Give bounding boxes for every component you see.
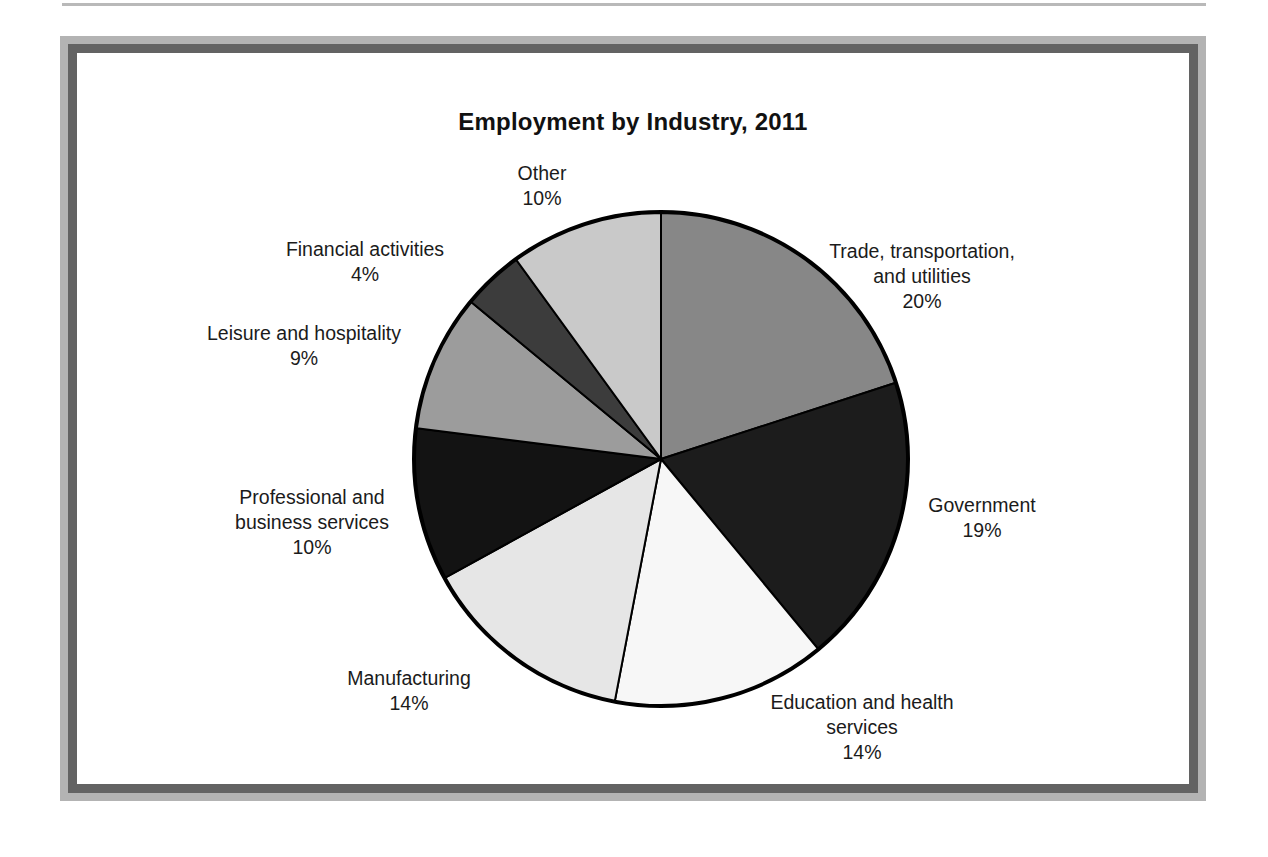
pie-label-education-and-health-services: Education and health services 14% (737, 690, 987, 765)
pie-label-financial-activities: Financial activities 4% (240, 237, 490, 287)
pie-label-other: Other 10% (462, 161, 622, 211)
chart-canvas: Employment by Industry, 2011 Trade, tran… (77, 53, 1189, 784)
page-top-rule (62, 3, 1206, 6)
figure-frame-inner: Employment by Industry, 2011 Trade, tran… (68, 44, 1198, 793)
pie-label-leisure-and-hospitality: Leisure and hospitality 9% (159, 321, 449, 371)
pie-label-trade-transportation-and-utilities: Trade, transportation, and utilities 20% (807, 239, 1037, 314)
pie-label-professional-and-business-services: Professional and business services 10% (187, 485, 437, 560)
chart-title: Employment by Industry, 2011 (77, 108, 1189, 136)
figure-frame-outer: Employment by Industry, 2011 Trade, tran… (60, 36, 1206, 801)
figure-page: Employment by Industry, 2011 Trade, tran… (0, 0, 1268, 857)
pie-label-government: Government 19% (877, 493, 1087, 543)
pie-label-manufacturing: Manufacturing 14% (299, 666, 519, 716)
